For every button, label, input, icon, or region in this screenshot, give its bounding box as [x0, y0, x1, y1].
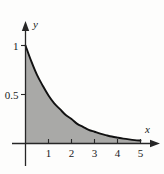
x-axis-tick-label: 1 [46, 147, 52, 159]
x-axis-tick-label: 3 [92, 147, 98, 159]
x-axis-tick-labels: 12345 [46, 147, 144, 159]
x-axis-tick-label: 4 [115, 147, 121, 159]
y-axis-arrow-icon [22, 21, 29, 31]
x-axis-tick-label: 2 [69, 147, 75, 159]
y-axis-tick-label: 1 [13, 40, 19, 52]
y-axis-tick-label: 0.5 [5, 89, 19, 101]
x-axis-label: x [144, 123, 150, 135]
x-axis-tick-label: 5 [138, 147, 144, 159]
y-axis-tick-labels: 0.51 [5, 40, 19, 101]
shaded-area-under-curve [26, 46, 141, 144]
chart-figure: 0.51 12345 y x [0, 0, 164, 174]
y-axis-label: y [32, 18, 38, 30]
x-axis-arrow-icon [150, 140, 160, 147]
area-chart: 0.51 12345 y x [0, 0, 164, 174]
